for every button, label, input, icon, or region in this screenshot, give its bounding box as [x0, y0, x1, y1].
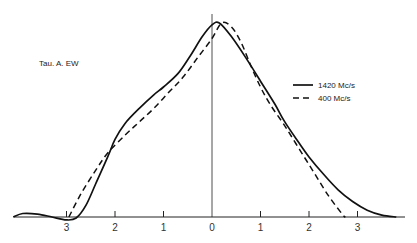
x-tick-label: 1 — [161, 222, 167, 233]
series-line-400-mc-s — [69, 22, 346, 217]
legend-label-400: 400 Mc/s — [318, 94, 350, 103]
x-tick-label: 1 — [258, 222, 264, 233]
series-group — [13, 22, 396, 220]
x-tick-label: 2 — [112, 222, 118, 233]
x-tick-label: 2 — [306, 222, 312, 233]
legend-label-1420: 1420 Mc/s — [318, 81, 355, 90]
x-tick-label: 3 — [355, 222, 361, 233]
x-tick-label: 3 — [64, 222, 70, 233]
chart: 3210123 1420 Mc/s 400 Mc/s Tau. A. EW — [0, 0, 417, 243]
x-tick-label: 0 — [209, 222, 215, 233]
source-annotation: Tau. A. EW — [39, 59, 79, 68]
axes — [14, 14, 405, 217]
series-line-1420-mc-s — [13, 22, 396, 220]
legend: 1420 Mc/s 400 Mc/s — [293, 81, 355, 103]
